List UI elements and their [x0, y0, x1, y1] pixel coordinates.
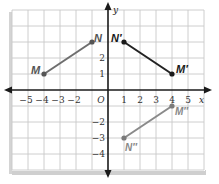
- y-tick: −3: [92, 133, 106, 143]
- x-tick: −2: [67, 95, 80, 105]
- coordinate-plane-figure: y x −5 −4 −3 −2 O 1 2 3 4 5 2 1 −2 −3 −4…: [0, 0, 219, 184]
- point-M-double-prime: [169, 103, 174, 108]
- y-tick: 2: [99, 53, 105, 63]
- x-tick: −3: [51, 95, 65, 105]
- label-M-double-prime: M″: [175, 106, 189, 117]
- y-axis-arrow-up-icon: [105, 2, 112, 10]
- x-tick: −5: [19, 95, 33, 105]
- x-tick: 1: [121, 95, 127, 105]
- point-M-prime: [169, 71, 174, 76]
- label-M-prime: M′: [176, 63, 189, 75]
- label-N: N: [94, 32, 103, 44]
- x-tick: 2: [137, 95, 143, 105]
- coordinate-plane: y x −5 −4 −3 −2 O 1 2 3 4 5 2 1 −2 −3 −4…: [0, 0, 219, 184]
- y-tick: −2: [92, 117, 105, 127]
- label-M: M: [31, 64, 41, 76]
- point-M: [41, 71, 46, 76]
- y-axis-label: y: [112, 5, 119, 15]
- point-N-double-prime: [121, 135, 126, 140]
- origin-label: O: [97, 95, 105, 105]
- point-N-prime: [121, 39, 126, 44]
- x-axis-arrow-left-icon: [4, 87, 12, 94]
- x-tick: 5: [185, 95, 191, 105]
- x-tick: 3: [153, 95, 159, 105]
- label-N-double-prime: N″: [125, 142, 138, 153]
- y-tick: −4: [92, 149, 106, 159]
- x-axis-label: x: [199, 95, 204, 105]
- label-N-prime: N′: [111, 32, 123, 44]
- y-tick: 1: [99, 69, 105, 79]
- x-tick: −4: [35, 95, 49, 105]
- x-axis-arrow-right-icon: [204, 87, 212, 94]
